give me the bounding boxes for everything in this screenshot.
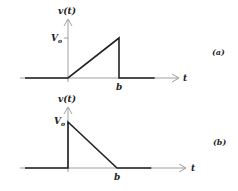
- signal-b: [25, 122, 151, 168]
- y-axis-label-a: v(t): [58, 6, 76, 16]
- panel-label-b: (b): [213, 137, 226, 147]
- level-label-a: Vo: [51, 33, 62, 44]
- panel-a: v(t) Vo b t (a): [20, 6, 225, 92]
- panel-label-a: (a): [212, 47, 225, 57]
- figure: v(t) Vo b t (a) v(t) Vo b t (b): [0, 0, 238, 191]
- x-axis-label-a: t: [183, 73, 188, 83]
- y-axis-label-b: v(t): [58, 94, 76, 104]
- level-label-b: Vo: [54, 116, 65, 127]
- panel-b: v(t) Vo b t (b): [20, 94, 226, 182]
- b-label-b: b: [114, 172, 120, 182]
- x-axis-label-b: t: [191, 163, 196, 173]
- b-label-a: b: [116, 82, 122, 92]
- signal-a: [25, 38, 155, 78]
